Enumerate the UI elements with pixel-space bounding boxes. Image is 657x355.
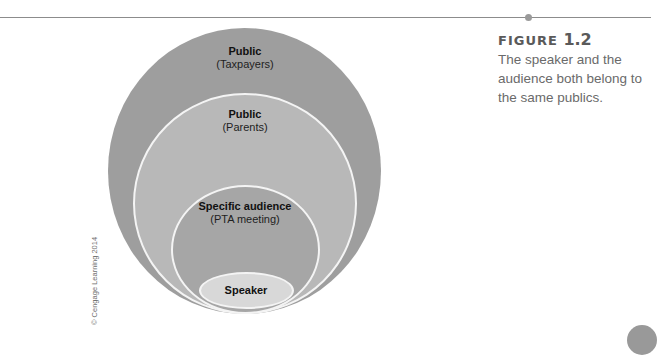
figure-label: FIGURE 1.2 (498, 30, 648, 49)
header-rule (0, 17, 651, 18)
label-public-parents: Public (Parents) (185, 108, 305, 134)
label-speaker: Speaker (186, 284, 306, 297)
label-specific-audience: Specific audience (PTA meeting) (195, 200, 295, 226)
copyright-credit: © Cengage Learning 2014 (90, 237, 99, 325)
label-title: Speaker (186, 284, 306, 297)
label-title: Public (185, 108, 305, 121)
figure-caption: FIGURE 1.2 The speaker and the audience … (498, 30, 648, 107)
figure-caption-text: The speaker and the audience both belong… (498, 50, 648, 107)
label-title: Specific audience (195, 200, 295, 213)
page-corner-tab (627, 325, 657, 355)
figure-label-prefix: FIGURE (498, 33, 558, 48)
label-subtitle: (Parents) (185, 121, 305, 134)
label-subtitle: (Taxpayers) (185, 58, 305, 71)
rule-dot-marker (525, 14, 532, 21)
label-public-taxpayers: Public (Taxpayers) (185, 45, 305, 71)
figure-label-number: 1.2 (563, 30, 591, 49)
label-title: Public (185, 45, 305, 58)
label-subtitle: (PTA meeting) (195, 213, 295, 226)
